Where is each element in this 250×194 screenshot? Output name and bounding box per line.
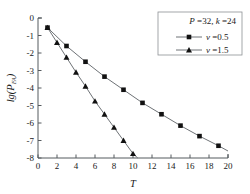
series-line-1	[48, 28, 138, 158]
legend-value: =0.5	[210, 32, 229, 42]
legend-value: =1.5	[210, 45, 229, 55]
data-point-square	[216, 143, 221, 148]
x-tick-label: 4	[74, 161, 79, 171]
data-point-triangle	[64, 54, 70, 59]
y-tick-label: -1	[27, 31, 35, 41]
y-tick-label: -3	[27, 66, 35, 76]
line-chart: 024681012141618200-1-2-3-4-5-6-7-8 P =32…	[0, 0, 250, 194]
data-point-square	[140, 101, 145, 106]
x-tick-label: 0	[36, 161, 41, 171]
data-point-square	[178, 123, 183, 128]
y-tick-label: -8	[27, 153, 35, 163]
data-point-triangle	[92, 98, 98, 103]
data-point-square	[197, 134, 202, 139]
y-tick-label: -4	[27, 83, 35, 93]
data-point-square	[64, 44, 69, 49]
legend-marker-square	[187, 35, 192, 40]
x-tick-label: 10	[129, 161, 139, 171]
ylabel-suffix: )	[5, 73, 17, 78]
x-tick-label: 8	[112, 161, 117, 171]
legend: P =32, k =24v =0.5v =1.5	[158, 12, 242, 55]
data-point-square	[159, 112, 164, 117]
data-point-triangle	[54, 40, 60, 45]
x-tick-label: 6	[93, 161, 98, 171]
data-point-square	[102, 74, 107, 79]
y-tick-label: -7	[27, 136, 35, 146]
y-tick-label: 0	[30, 13, 35, 23]
x-axis-title: T	[130, 178, 137, 189]
chart-figure: 024681012141618200-1-2-3-4-5-6-7-8 P =32…	[0, 0, 250, 194]
legend-annotation: P =32, k =24	[188, 16, 236, 26]
y-tick-label: -2	[27, 48, 35, 58]
annotation-p-value: =32,	[195, 16, 216, 26]
x-tick-label: 20	[224, 161, 234, 171]
y-axis-title: lg(PFA)	[5, 73, 17, 102]
x-tick-label: 18	[205, 161, 215, 171]
annotation-k-value: =24	[220, 16, 237, 26]
x-tick-label: 2	[55, 161, 60, 171]
x-tick-label: 16	[186, 161, 196, 171]
data-point-triangle	[83, 83, 89, 88]
legend-label-0: v =0.5	[206, 32, 229, 42]
data-point-square	[121, 87, 126, 92]
data-point-triangle	[73, 69, 79, 74]
ylabel-subscript: FA	[10, 77, 17, 85]
y-tick-label: -6	[27, 118, 35, 128]
y-tick-label: -5	[27, 101, 35, 111]
data-point-square	[83, 59, 88, 64]
x-tick-label: 12	[148, 161, 157, 171]
legend-label-1: v =1.5	[206, 45, 229, 55]
x-tick-label: 14	[167, 161, 177, 171]
